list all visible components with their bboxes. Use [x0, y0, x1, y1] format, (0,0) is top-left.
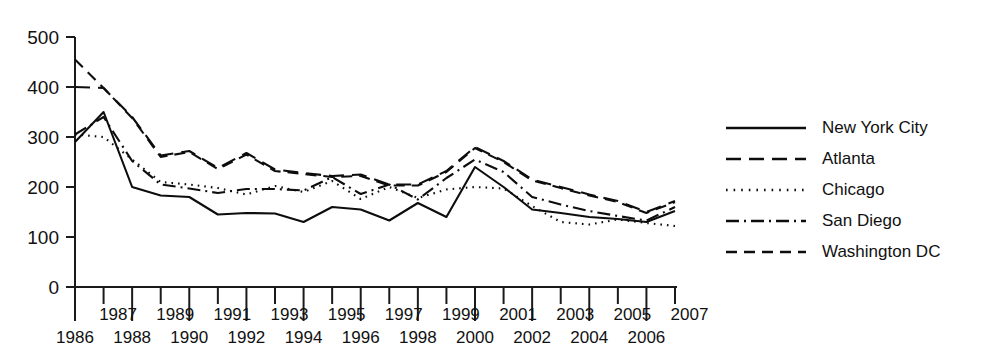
chart-legend: New York CityAtlantaChicagoSan DiegoWash… — [726, 118, 940, 261]
x-tick-label-lower: 1992 — [228, 328, 266, 347]
x-tick-label-lower: 2002 — [513, 328, 551, 347]
series-line-washington-dc — [75, 60, 675, 214]
legend-item-atlanta: Atlanta — [726, 149, 875, 168]
y-tick-label: 0 — [48, 277, 59, 298]
legend-item-washington-dc: Washington DC — [726, 242, 940, 261]
line-chart: 0100200300400500 19861987198819891990199… — [0, 0, 992, 364]
x-tick-label-lower: 1998 — [399, 328, 437, 347]
y-axis-ticks — [66, 37, 75, 287]
series-line-atlanta — [75, 87, 675, 212]
legend-label: San Diego — [822, 211, 901, 230]
series-line-san-diego — [75, 117, 675, 221]
y-tick-label: 400 — [27, 77, 59, 98]
legend-label: Atlanta — [822, 149, 875, 168]
x-tick-label-upper: 2005 — [613, 305, 651, 324]
x-tick-label-upper: 2007 — [671, 305, 709, 324]
x-tick-label-lower: 2000 — [456, 328, 494, 347]
legend-item-chicago: Chicago — [726, 180, 884, 199]
x-tick-label-upper: 1999 — [442, 305, 480, 324]
x-tick-label-upper: 1993 — [271, 305, 309, 324]
x-tick-label-lower: 1996 — [342, 328, 380, 347]
x-tick-label-upper: 1991 — [213, 305, 251, 324]
x-tick-label-lower: 1986 — [56, 328, 94, 347]
legend-label: Washington DC — [822, 242, 940, 261]
x-axis-group: 1986198719881989199019911992199319941995… — [56, 287, 708, 347]
legend-label: New York City — [822, 118, 928, 137]
x-tick-label-upper: 1989 — [156, 305, 194, 324]
y-tick-label: 500 — [27, 27, 59, 48]
x-axis-tick-labels: 1986198719881989199019911992199319941995… — [56, 305, 708, 347]
x-tick-label-upper: 1987 — [99, 305, 137, 324]
x-tick-label-lower: 1988 — [113, 328, 151, 347]
legend-label: Chicago — [822, 180, 884, 199]
y-tick-label: 200 — [27, 177, 59, 198]
y-axis-group: 0100200300400500 — [27, 27, 75, 298]
x-tick-label-lower: 1990 — [170, 328, 208, 347]
x-tick-label-lower: 1994 — [285, 328, 323, 347]
y-axis-tick-labels: 0100200300400500 — [27, 27, 59, 298]
x-tick-label-lower: 2004 — [570, 328, 608, 347]
legend-item-new-york-city: New York City — [726, 118, 928, 137]
chart-container: 0100200300400500 19861987198819891990199… — [0, 0, 992, 364]
data-series-group — [75, 60, 675, 227]
x-tick-label-upper: 1995 — [328, 305, 366, 324]
x-tick-label-upper: 1997 — [385, 305, 423, 324]
legend-item-san-diego: San Diego — [726, 211, 901, 230]
y-tick-label: 300 — [27, 127, 59, 148]
x-tick-label-upper: 2001 — [499, 305, 537, 324]
y-tick-label: 100 — [27, 227, 59, 248]
x-tick-label-upper: 2003 — [556, 305, 594, 324]
x-tick-label-lower: 2006 — [628, 328, 666, 347]
series-line-new-york-city — [75, 112, 675, 222]
